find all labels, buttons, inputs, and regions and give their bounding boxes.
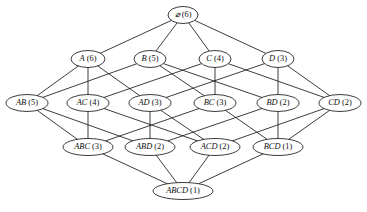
- node-label: BC (3): [204, 98, 227, 107]
- node-label: A (6): [79, 54, 97, 63]
- lattice-diagram: ⌀ (6)A (6)B (5)C (4)D (3)AB (5)AC (4)AD …: [0, 0, 367, 212]
- lattice-edge: [156, 23, 177, 51]
- node-label: AB (5): [15, 98, 38, 107]
- lattice-node-bc[interactable]: BC (3): [194, 95, 236, 112]
- node-label: ABCD (1): [165, 186, 200, 195]
- lattice-edge: [104, 109, 198, 141]
- lattice-edge: [226, 110, 268, 139]
- lattice-edge: [100, 20, 171, 53]
- lattice-edge: [106, 109, 200, 141]
- lattice-edge: [37, 66, 78, 96]
- node-layer: ⌀ (6)A (6)B (5)C (4)D (3)AB (5)AC (4)AD …: [6, 7, 361, 200]
- lattice-node-abcd[interactable]: ABCD (1): [153, 183, 213, 200]
- lattice-node-empty[interactable]: ⌀ (6): [168, 7, 198, 24]
- lattice-edge: [37, 110, 77, 139]
- node-label: ACD (2): [200, 142, 230, 151]
- lattice-node-a[interactable]: A (6): [71, 51, 105, 68]
- node-label: ⌀ (6): [175, 10, 192, 19]
- lattice-edge: [228, 64, 324, 98]
- lattice-edge: [199, 154, 264, 184]
- lattice-edge: [156, 155, 177, 182]
- lattice-edge: [289, 110, 330, 139]
- lattice-node-acd[interactable]: ACD (2): [190, 139, 240, 156]
- node-label: AD (3): [137, 98, 161, 107]
- lattice-edge: [163, 64, 262, 98]
- lattice-edge: [189, 155, 209, 182]
- lattice-node-abd[interactable]: ABD (2): [125, 139, 175, 156]
- lattice-node-c[interactable]: C (4): [199, 51, 231, 68]
- lattice-canvas: ⌀ (6)A (6)B (5)C (4)D (3)AB (5)AC (4)AD …: [0, 0, 367, 212]
- lattice-node-bcd[interactable]: BCD (1): [253, 139, 303, 156]
- lattice-edge: [189, 23, 210, 51]
- node-label: BCD (1): [264, 142, 293, 151]
- node-label: C (4): [206, 54, 224, 63]
- lattice-edge: [195, 20, 266, 53]
- lattice-node-ac[interactable]: AC (4): [67, 95, 109, 112]
- lattice-edge: [43, 64, 137, 98]
- node-label: CD (2): [328, 98, 352, 107]
- lattice-node-abc[interactable]: ABC (3): [63, 139, 113, 156]
- lattice-node-d[interactable]: D (3): [262, 51, 294, 68]
- lattice-node-ad[interactable]: AD (3): [129, 95, 171, 112]
- lattice-edge: [103, 154, 168, 184]
- lattice-node-cd[interactable]: CD (2): [319, 95, 361, 112]
- node-label: B (5): [142, 54, 159, 63]
- node-label: AC (4): [76, 98, 100, 107]
- lattice-node-ab[interactable]: AB (5): [6, 95, 48, 112]
- node-label: ABD (2): [135, 142, 164, 151]
- lattice-edge: [288, 66, 330, 96]
- node-label: BD (2): [266, 98, 289, 107]
- lattice-node-bd[interactable]: BD (2): [257, 95, 299, 112]
- lattice-node-b[interactable]: B (5): [134, 51, 166, 68]
- node-label: D (3): [268, 54, 287, 63]
- node-label: ABC (3): [73, 142, 102, 151]
